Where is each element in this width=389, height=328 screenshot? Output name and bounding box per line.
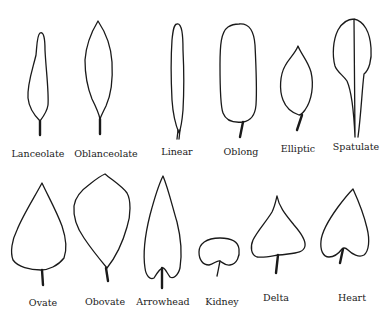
leaf-spatulate: Spatulate <box>333 19 380 152</box>
kidney-outline <box>199 238 239 265</box>
leaf-shapes-diagram: Lanceolate Oblanceolate Linear Oblong El… <box>0 0 389 328</box>
leaf-obovate: Obovate <box>74 174 130 307</box>
kidney-stem <box>217 261 220 276</box>
linear-outline <box>171 24 184 133</box>
leaf-kidney: Kidney <box>199 238 239 307</box>
leaf-lanceolate: Lanceolate <box>12 33 65 159</box>
linear-label: Linear <box>161 146 193 157</box>
leaf-ovate: Ovate <box>12 183 66 308</box>
leaf-delta: Delta <box>251 196 305 303</box>
ovate-stem <box>42 270 43 285</box>
obovate-label: Obovate <box>85 296 125 307</box>
oblanceolate-outline <box>85 21 112 119</box>
lanceolate-label: Lanceolate <box>12 148 65 159</box>
spatulate-outline <box>333 19 371 137</box>
elliptic-stem <box>297 115 302 130</box>
delta-stem <box>276 255 278 273</box>
oblong-outline <box>220 24 256 122</box>
oblong-stem <box>240 122 243 137</box>
spatulate-label: Spatulate <box>333 141 380 152</box>
arrowhead-label: Arrowhead <box>135 296 189 307</box>
linear-stem <box>177 130 180 139</box>
arrowhead-outline <box>144 176 181 279</box>
heart-label: Heart <box>338 292 366 303</box>
leaf-arrowhead: Arrowhead <box>135 176 189 307</box>
obovate-outline <box>74 174 130 268</box>
leaf-linear: Linear <box>161 24 193 157</box>
ovate-outline <box>12 183 66 270</box>
leaf-elliptic: Elliptic <box>281 46 316 154</box>
delta-outline <box>251 196 305 257</box>
leaf-oblanceolate: Oblanceolate <box>74 21 138 159</box>
oblanceolate-label: Oblanceolate <box>74 148 138 159</box>
lanceolate-outline <box>28 33 48 121</box>
kidney-label: Kidney <box>205 296 239 307</box>
leaf-oblong: Oblong <box>220 24 258 157</box>
delta-label: Delta <box>263 292 289 303</box>
elliptic-label: Elliptic <box>281 143 315 154</box>
elliptic-outline <box>281 46 313 115</box>
heart-outline <box>321 189 369 257</box>
oblong-label: Oblong <box>224 146 259 157</box>
leaf-heart: Heart <box>321 189 369 303</box>
obovate-stem <box>106 268 108 281</box>
ovate-label: Ovate <box>29 297 58 308</box>
